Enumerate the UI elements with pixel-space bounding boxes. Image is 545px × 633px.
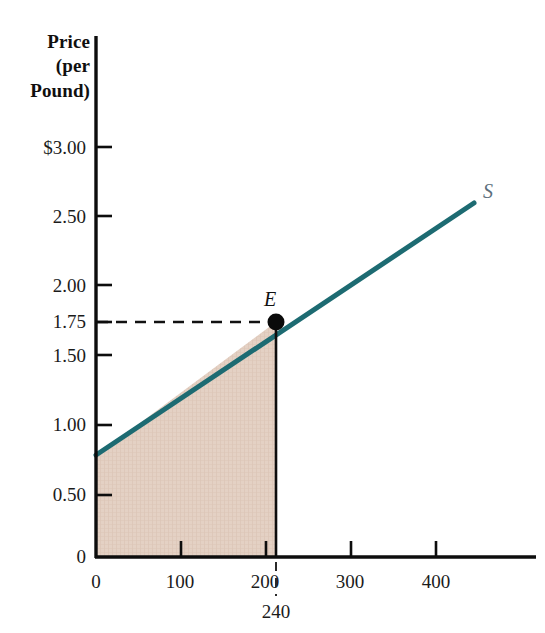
supply-curve-figure: Price (per Pound) $3.00 2.50 2.00 1.75 1… <box>0 0 545 633</box>
supply-curve <box>96 203 474 455</box>
producer-cost-area <box>97 322 276 557</box>
plot-canvas <box>0 0 545 633</box>
y-axis-ticks <box>97 147 112 495</box>
equilibrium-point-marker <box>268 314 285 331</box>
